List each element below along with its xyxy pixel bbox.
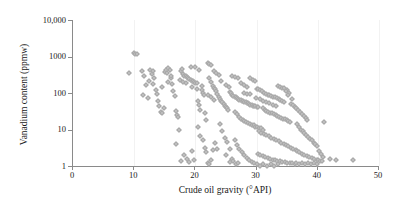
data-point-marker xyxy=(216,72,222,78)
data-point-marker xyxy=(208,157,214,163)
data-point-marker xyxy=(227,146,233,152)
x-tick-label-30: 30 xyxy=(251,171,260,180)
data-point-marker xyxy=(214,146,220,152)
data-point-marker xyxy=(167,67,173,73)
data-point-marker xyxy=(314,162,320,168)
data-point-marker xyxy=(172,93,178,99)
data-point-marker xyxy=(208,62,214,68)
x-tick-label-10: 10 xyxy=(129,171,138,180)
plot-area xyxy=(72,20,379,167)
data-point-marker xyxy=(191,157,197,163)
data-point-marker xyxy=(247,91,253,97)
data-point-marker xyxy=(327,156,333,162)
data-point-marker xyxy=(194,86,200,92)
data-point-marker xyxy=(145,95,151,101)
gridline-vertical xyxy=(379,20,380,166)
data-point-marker xyxy=(174,141,180,147)
y-tick-label-1000: 1000 xyxy=(49,52,66,61)
data-point-marker xyxy=(289,96,295,102)
x-tick-label-20: 20 xyxy=(190,171,199,180)
data-point-marker xyxy=(141,73,147,79)
data-point-marker xyxy=(188,64,194,70)
data-point-marker xyxy=(211,97,217,103)
scatter-chart-figure: 10,000 1000 100 10 1 0 10 20 30 40 50 Cr… xyxy=(0,0,405,202)
data-point-marker xyxy=(202,110,208,116)
data-point-marker xyxy=(350,157,356,163)
data-point-marker xyxy=(253,78,259,84)
y-axis-title: Vanadium content (ppmw) xyxy=(19,22,30,168)
data-point-marker xyxy=(223,152,229,158)
data-point-marker xyxy=(195,124,201,130)
data-point-marker xyxy=(200,138,206,144)
data-point-marker xyxy=(219,128,225,134)
x-tick-label-50: 50 xyxy=(374,171,383,180)
x-tick-label-0: 0 xyxy=(70,171,74,180)
data-point-marker xyxy=(196,67,202,73)
data-point-marker xyxy=(160,84,166,90)
data-point-marker xyxy=(305,117,311,123)
data-point-marker xyxy=(189,148,195,154)
data-point-marker xyxy=(177,127,183,133)
data-point-marker xyxy=(204,117,210,123)
data-point-marker xyxy=(281,99,287,105)
data-point-marker xyxy=(226,107,232,113)
data-point-marker xyxy=(159,110,165,116)
data-points-layer xyxy=(73,20,379,166)
data-point-marker xyxy=(217,121,223,127)
data-point-marker xyxy=(154,91,160,97)
x-axis-title: Crude oil gravity (°API) xyxy=(72,185,378,196)
data-point-marker xyxy=(235,160,241,166)
y-tick-label-10: 10 xyxy=(58,125,67,134)
y-tick-label-10000: 10,000 xyxy=(43,16,66,25)
y-tick-label-100: 100 xyxy=(53,89,66,98)
data-point-marker xyxy=(207,162,213,168)
data-point-marker xyxy=(273,103,279,109)
data-point-marker xyxy=(321,119,327,125)
data-point-marker xyxy=(287,119,293,125)
data-point-marker xyxy=(333,157,339,163)
y-tick-label-1: 1 xyxy=(62,162,66,171)
data-point-marker xyxy=(226,84,232,90)
data-point-marker xyxy=(175,114,181,120)
x-tick-label-40: 40 xyxy=(313,171,322,180)
data-point-marker xyxy=(224,139,230,145)
data-point-marker xyxy=(204,149,210,155)
data-point-marker xyxy=(126,70,132,76)
data-point-marker xyxy=(178,158,184,164)
